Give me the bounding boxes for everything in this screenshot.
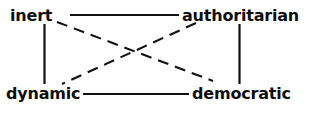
node-label-inert: inert xyxy=(10,8,52,24)
edge-inert-democratic-dashed xyxy=(57,22,213,81)
concept-diagram: inert authoritarian dynamic democratic xyxy=(0,0,310,114)
node-label-authoritarian: authoritarian xyxy=(182,8,299,24)
node-label-democratic: democratic xyxy=(192,86,291,102)
node-label-dynamic: dynamic xyxy=(6,86,80,102)
